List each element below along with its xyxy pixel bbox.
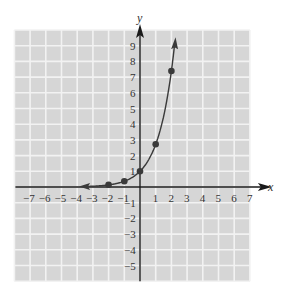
y-tick-label: 3 [130,134,136,146]
x-axis-label: x [267,180,274,194]
data-point [152,141,159,148]
exponential-graph: −7−6−5−4−3−2−11234567−5−4−3−2−1123456789… [0,0,286,298]
data-point [105,182,112,189]
data-point [121,178,128,185]
y-tick-label: −2 [124,212,136,224]
y-tick-label: −3 [124,228,136,240]
x-tick-label: 6 [231,192,237,204]
x-tick-label: −6 [39,192,51,204]
x-tick-label: 7 [247,192,253,204]
y-tick-label: 6 [130,87,136,99]
y-tick-label: 9 [130,40,136,52]
x-tick-label: −4 [70,192,82,204]
y-tick-label: −1 [124,197,136,209]
y-tick-label: 7 [130,71,136,83]
data-point [168,68,175,75]
y-axis-label: y [136,11,143,25]
x-tick-label: −7 [23,192,35,204]
x-tick-label: 4 [200,192,206,204]
x-tick-label: 1 [153,192,159,204]
y-tick-label: 4 [130,118,136,130]
y-tick-label: 8 [130,55,136,67]
x-tick-label: 5 [216,192,222,204]
y-tick-label: −5 [124,260,136,272]
x-tick-label: −5 [55,192,67,204]
y-tick-label: 2 [130,150,136,162]
x-tick-label: 3 [184,192,190,204]
x-tick-label: 2 [168,192,174,204]
x-tick-label: −2 [102,192,114,204]
x-tick-label: −3 [86,192,98,204]
y-tick-label: 5 [130,103,136,115]
y-tick-label: −4 [124,244,136,256]
data-point [137,168,144,175]
